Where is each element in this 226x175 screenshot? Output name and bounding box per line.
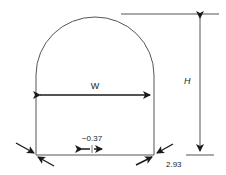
tunnel-diagram: W H −0.37 2.93 xyxy=(0,0,226,175)
left-corner-arrow-lower xyxy=(38,157,54,166)
corner-value: 2.93 xyxy=(166,160,182,169)
right-corner-arrow-upper xyxy=(157,144,173,153)
left-corner-arrow-upper xyxy=(16,143,34,153)
right-corner-arrow-lower xyxy=(136,157,152,165)
height-label: H xyxy=(184,76,191,86)
floor-convergence-value: −0.37 xyxy=(82,134,103,143)
width-label: W xyxy=(91,81,100,91)
